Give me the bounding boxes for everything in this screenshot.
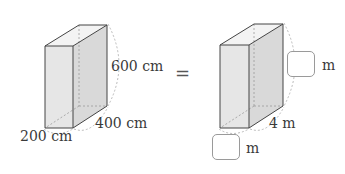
left-width-label: 200 cm	[20, 129, 72, 143]
equals-sign: =	[175, 65, 190, 83]
right-depth-label: 4 m	[269, 116, 296, 130]
left-depth-label: 400 cm	[95, 116, 147, 130]
width-unit-label: m	[246, 141, 259, 155]
width-answer-box[interactable]	[212, 134, 240, 160]
height-answer-box[interactable]	[287, 51, 315, 77]
prisms-diagram	[0, 0, 345, 174]
left-height-label: 600 cm	[111, 59, 163, 73]
height-unit-label: m	[322, 58, 335, 72]
